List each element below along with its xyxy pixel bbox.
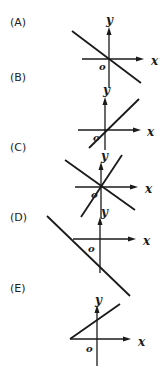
graph-b-origin-label: o xyxy=(93,132,100,143)
graph-c-x-label: x xyxy=(144,182,153,196)
graph-e-origin-label: o xyxy=(86,343,93,354)
graph-b: y x o xyxy=(78,83,155,150)
graph-d-origin-label: o xyxy=(88,243,95,254)
graph-e-ray xyxy=(70,304,120,339)
graph-a-line xyxy=(72,31,141,83)
graph-a-x-label: x xyxy=(150,54,159,68)
graph-a: y x o xyxy=(72,13,159,88)
graph-b-y-label: y xyxy=(102,83,111,97)
graph-c-x-arrow-icon xyxy=(130,185,138,190)
graph-d-x-label: x xyxy=(142,234,151,248)
graph-b-y-arrow-icon xyxy=(103,97,108,105)
graph-e-x-label: x xyxy=(137,335,146,349)
graph-b-x-arrow-icon xyxy=(133,128,141,133)
graph-c-y-label: y xyxy=(100,149,109,163)
graph-a-y-label: y xyxy=(105,13,114,27)
graph-d-x-arrow-icon xyxy=(128,237,136,242)
graph-a-x-arrow-icon xyxy=(136,57,144,62)
graph-e-x-arrow-icon xyxy=(123,337,131,342)
graph-c-y-arrow-icon xyxy=(99,162,104,170)
graph-d-line xyxy=(47,216,130,296)
graph-c-origin-label: o xyxy=(91,189,98,200)
graph-b-x-label: x xyxy=(146,125,155,139)
graph-d-y-label: y xyxy=(100,205,109,219)
graph-a-y-arrow-icon xyxy=(107,27,112,35)
graph-a-origin-label: o xyxy=(99,61,106,72)
graph-c: y x o xyxy=(65,149,153,218)
graph-d: y x o xyxy=(47,205,151,296)
graph-e-y-label: y xyxy=(94,293,103,307)
graph-e: y x o xyxy=(70,293,146,366)
graphs-canvas: y x o y x o y x o y x o xyxy=(0,0,166,377)
